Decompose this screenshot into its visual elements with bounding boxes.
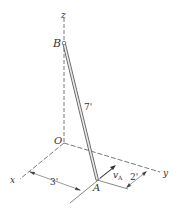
z-label: z (60, 10, 66, 20)
dim-3-arrow-right (75, 187, 81, 191)
dim-2-arrow-top (142, 171, 147, 176)
velocity-label: vA (113, 170, 123, 181)
b-label: B (52, 37, 61, 50)
dim-2-arrow-bottom (126, 183, 131, 188)
a-y-line (97, 180, 128, 189)
dim-3-label: 3' (50, 177, 58, 187)
point-b (62, 41, 66, 45)
origin-label: O (54, 135, 62, 146)
x-label: x (10, 175, 15, 185)
rod-diagram: z B 7' O x y A vA 3' 2' (0, 0, 186, 208)
y-label: y (162, 168, 169, 178)
dim-3-arrow-left (29, 172, 35, 176)
x-axis (20, 143, 64, 179)
a-label: A (92, 182, 100, 193)
dim-2-label: 2' (130, 172, 138, 182)
rod-length-label: 7' (84, 102, 92, 112)
